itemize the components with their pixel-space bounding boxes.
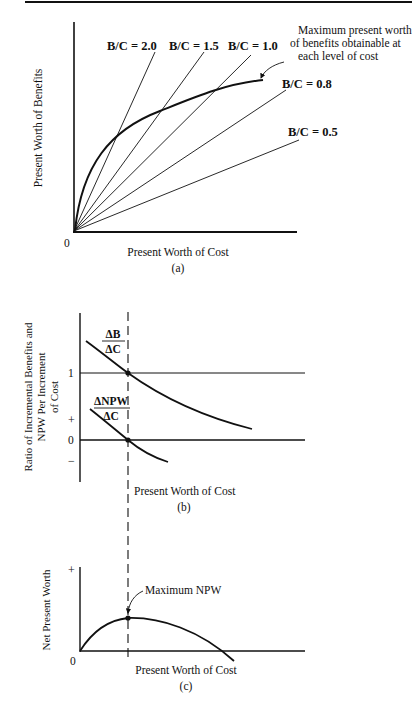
- note-line-1: Maximum present worth: [298, 24, 412, 37]
- panel-b-y-label-line-2: NPW Per Increment: [35, 353, 47, 442]
- note-line-2: of benefits obtainable at: [290, 37, 402, 49]
- panel-a-origin: 0: [64, 237, 70, 249]
- note-line-3: each level of cost: [298, 50, 379, 62]
- curve-dnpw-dc: [90, 409, 168, 462]
- dnpw-denominator: ΔC: [103, 410, 119, 422]
- panel-a: B/C = 2.0 B/C = 1.5 B/C = 1.0 B/C = 0.8 …: [32, 22, 412, 275]
- db-denominator: ΔC: [105, 343, 121, 355]
- tick-plus: +: [68, 413, 75, 427]
- panel-b-y-label-line-3: of Cost: [48, 381, 60, 413]
- panel-c-caption: (c): [180, 680, 193, 693]
- label-bc-2-0: B/C = 2.0: [107, 39, 157, 53]
- dnpw-numerator: ΔNPW: [94, 395, 129, 407]
- npw-curve: [80, 618, 234, 661]
- panel-a-y-label: Present Worth of Benefits: [32, 68, 44, 187]
- ray-bc-0-5: [74, 140, 299, 231]
- panel-b-caption: (b): [177, 501, 191, 514]
- panel-a-caption: (a): [172, 262, 185, 275]
- note-arrow: [261, 62, 284, 78]
- label-bc-0-5: B/C = 0.5: [288, 125, 338, 139]
- ray-bc-1-0: [74, 55, 251, 231]
- max-npw-label: Maximum NPW: [145, 584, 221, 596]
- point-maximum-npw: [125, 615, 130, 620]
- max-benefit-curve: [75, 80, 263, 230]
- panel-a-x-label: Present Worth of Cost: [127, 246, 229, 258]
- tick-zero: 0: [68, 434, 74, 446]
- ray-bc-1-5: [74, 52, 204, 231]
- point-db-dc-crossing: [125, 370, 130, 375]
- tick-one: 1: [68, 367, 74, 379]
- panel-c-x-label: Present Worth of Cost: [135, 664, 237, 676]
- max-npw-arrow: [128, 591, 143, 613]
- panel-b: ΔB ΔC ΔNPW ΔC 1 + 0 − Ratio of Increment…: [22, 313, 305, 514]
- label-bc-1-0: B/C = 1.0: [228, 39, 278, 53]
- label-bc-0-8: B/C = 0.8: [282, 77, 332, 91]
- tick-zero-c: 0: [70, 655, 76, 667]
- panel-c: Maximum NPW + 0 Net Present Worth Presen…: [40, 563, 305, 693]
- label-bc-1-5: B/C = 1.5: [169, 39, 219, 53]
- figure-canvas: B/C = 2.0 B/C = 1.5 B/C = 1.0 B/C = 0.8 …: [0, 0, 412, 708]
- db-numerator: ΔB: [106, 328, 121, 340]
- point-dnpw-dc-crossing: [125, 437, 130, 442]
- tick-minus: −: [68, 454, 75, 468]
- panel-c-y-label: Net Present Worth: [40, 569, 52, 650]
- panel-b-x-label: Present Worth of Cost: [134, 485, 236, 497]
- panel-b-y-label-line-1: Ratio of Incremental Benefits and: [22, 322, 34, 472]
- tick-plus-c: +: [68, 563, 75, 577]
